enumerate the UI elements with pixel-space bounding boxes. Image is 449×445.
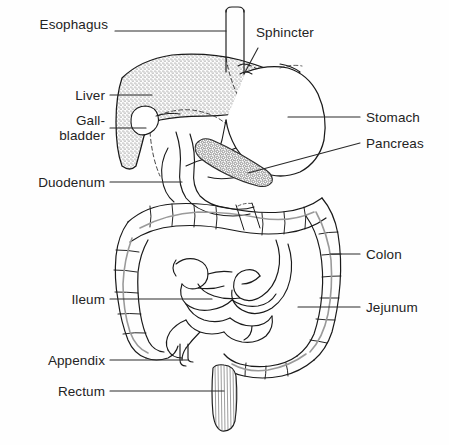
digestive-system-figure xyxy=(0,0,449,445)
label-gallbladder: Gall- bladder xyxy=(8,113,105,143)
label-colon: Colon xyxy=(366,247,449,262)
label-duodenum: Duodenum xyxy=(8,175,105,190)
label-jejunum: Jejunum xyxy=(366,300,449,315)
rectum-organ xyxy=(212,364,237,431)
label-pancreas: Pancreas xyxy=(366,136,449,151)
label-appendix: Appendix xyxy=(8,353,105,368)
label-stomach: Stomach xyxy=(366,110,449,125)
label-esophagus: Esophagus xyxy=(8,17,108,32)
small-intestine-loops xyxy=(166,240,291,360)
label-ileum: Ileum xyxy=(8,292,105,307)
label-liver: Liver xyxy=(8,88,105,103)
digestive-system-diagram-page: Esophagus Sphincter Liver Gall- bladder … xyxy=(0,0,449,445)
colon-transverse xyxy=(128,198,326,242)
label-sphincter: Sphincter xyxy=(256,25,356,40)
colon-ascending xyxy=(114,222,178,360)
label-rectum: Rectum xyxy=(8,384,105,399)
